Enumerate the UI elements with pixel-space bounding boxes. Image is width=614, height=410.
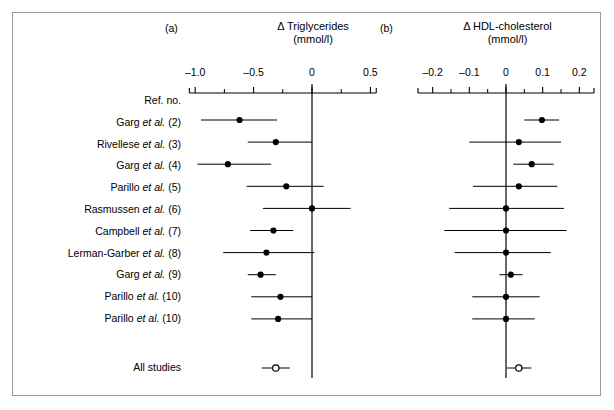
panel-b-tick-label: –0.1 (449, 66, 489, 78)
study-row-label: Lerman-Garber et al. (8) (0, 247, 181, 259)
panel-a-tick-label: 0 (292, 66, 332, 78)
panel-b-title: Δ HDL-cholesterol (mmol/l) (420, 20, 595, 46)
study-row-label: Garg et al. (2) (0, 116, 181, 128)
study-row-label: Garg et al. (4) (0, 159, 181, 171)
panel-b-tick-label: 0 (486, 66, 526, 78)
study-row-label: Parillo et al. (5) (0, 181, 181, 193)
panel-a-title-text: Δ Triglycerides (277, 20, 349, 32)
panel-b-tick-label: 0.1 (523, 66, 563, 78)
study-row-label: Garg et al. (9) (0, 268, 181, 280)
panel-a-tick-label: –0.5 (234, 66, 274, 78)
panel-a-title: Δ Triglycerides (mmol/l) (228, 20, 398, 46)
panel-a-tick-label: 0.5 (350, 66, 390, 78)
panel-a-tag: (a) (165, 22, 178, 34)
panel-b-unit: (mmol/l) (420, 33, 595, 46)
panel-a-unit: (mmol/l) (228, 33, 398, 46)
panel-b-title-text: Δ HDL-cholesterol (463, 20, 552, 32)
ref-no-header-label: Ref. no. (0, 94, 181, 106)
panel-a-tick-label: –1.0 (175, 66, 215, 78)
forest-plot-figure: (a) (b) Δ Triglycerides (mmol/l) Δ HDL-c… (0, 0, 614, 410)
study-row-label: Rasmussen et al. (6) (0, 203, 181, 215)
study-row-label: Rivellese et al. (3) (0, 138, 181, 150)
study-row-label: Campbell et al. (7) (0, 225, 181, 237)
panel-b-tick-label: 0.2 (559, 66, 599, 78)
summary-row-label: All studies (0, 361, 181, 373)
study-row-label: Parillo et al. (10) (0, 312, 181, 324)
panel-b-tick-label: –0.2 (413, 66, 453, 78)
study-row-label: Parillo et al. (10) (0, 290, 181, 302)
